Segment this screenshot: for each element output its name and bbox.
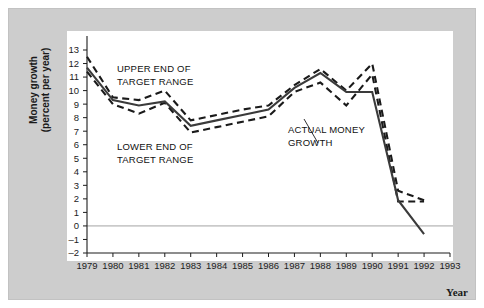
y-tick-label: 2 [74, 193, 79, 204]
y-tick-label: 6 [74, 139, 79, 150]
y-tick-label: 8 [74, 112, 79, 123]
chart-svg: 131211109876543210–1–2 19791980198119821… [0, 0, 484, 308]
x-tick-label: 1979 [76, 260, 97, 271]
x-tick-label: 1984 [206, 260, 227, 271]
x-tick-label: 1989 [336, 260, 357, 271]
y-tick-label: 4 [74, 166, 79, 177]
x-tick-label: 1990 [362, 260, 383, 271]
x-axis-ticks: 1979198019811982198319841985198619871988… [76, 253, 460, 271]
lower-range-label-line1: LOWER END OF [117, 141, 193, 152]
lower-range-label-line2: TARGET RANGE [117, 154, 193, 165]
upper-range-label-line1: UPPER END OF [117, 63, 191, 74]
y-tick-label: 10 [68, 85, 79, 96]
y-tick-label: 9 [74, 99, 79, 110]
series-lower-target-range [87, 72, 424, 202]
x-tick-label: 1993 [439, 260, 460, 271]
x-tick-label: 1988 [310, 260, 331, 271]
x-tick-label: 1986 [258, 260, 279, 271]
upper-range-label-line2: TARGET RANGE [117, 76, 193, 87]
y-tick-label: –2 [68, 247, 79, 258]
x-tick-label: 1992 [414, 260, 435, 271]
y-tick-label: 7 [74, 126, 79, 137]
y-tick-label: 12 [68, 58, 79, 69]
x-tick-label: 1985 [232, 260, 253, 271]
actual-label-line2: GROWTH [288, 137, 332, 148]
y-tick-label: 3 [74, 180, 79, 191]
x-tick-label: 1982 [154, 260, 175, 271]
y-tick-label: 11 [69, 71, 79, 82]
x-tick-label: 1981 [128, 260, 149, 271]
y-tick-label: –1 [68, 234, 79, 245]
y-tick-label: 5 [74, 153, 79, 164]
actual-label-line1: ACTUAL MONEY [288, 124, 365, 135]
x-tick-label: 1987 [284, 260, 305, 271]
y-tick-label: 1 [74, 207, 79, 218]
x-tick-label: 1980 [102, 260, 123, 271]
y-tick-label: 0 [74, 220, 79, 231]
y-axis-ticks: 131211109876543210–1–2 [68, 44, 87, 258]
x-tick-label: 1983 [180, 260, 201, 271]
y-tick-label: 13 [68, 44, 79, 55]
money-growth-figure: Money growth (percent per year) Year 131… [0, 0, 484, 308]
x-tick-label: 1991 [388, 260, 409, 271]
